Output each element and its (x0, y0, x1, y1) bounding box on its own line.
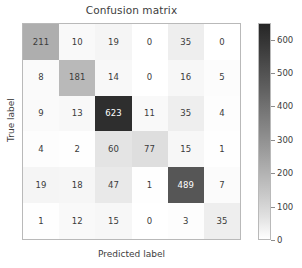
matrix-cell-r4-c5: 7 (204, 167, 240, 203)
matrix-cell-value: 18 (72, 181, 83, 190)
matrix-cell-value: 35 (180, 109, 191, 118)
matrix-cell-value: 77 (144, 145, 155, 154)
colorbar-tick-200 (271, 173, 275, 174)
colorbar-tick-400 (271, 106, 275, 107)
matrix-cell-r0-c4: 35 (168, 24, 204, 60)
matrix-cell-value: 4 (219, 109, 225, 118)
y-axis-label: True label (6, 70, 16, 170)
matrix-cell-value: 5 (219, 73, 225, 82)
matrix-cell-value: 181 (69, 73, 86, 82)
matrix-cell-value: 10 (72, 38, 83, 47)
matrix-cell-r0-c3: 0 (132, 24, 168, 60)
matrix-cell-value: 4 (38, 145, 44, 154)
matrix-cell-r1-c4: 16 (168, 60, 204, 96)
matrix-cell-value: 623 (105, 109, 122, 118)
matrix-cell-r5-c3: 0 (132, 203, 168, 239)
colorbar-tick-label-600: 600 (277, 35, 293, 45)
matrix-cell-r2-c4: 35 (168, 96, 204, 132)
confusion-matrix-figure: Confusion matrix 21110190350818114016591… (0, 0, 302, 268)
matrix-cell-value: 19 (36, 181, 47, 190)
matrix-cell-r3-c0: 4 (23, 131, 59, 167)
colorbar-tick-label-200: 200 (277, 168, 293, 178)
matrix-cell-value: 35 (216, 217, 227, 226)
matrix-cell-r1-c0: 8 (23, 60, 59, 96)
matrix-cell-r3-c5: 1 (204, 131, 240, 167)
colorbar-tick-100 (271, 207, 275, 208)
matrix-cell-r0-c1: 10 (59, 24, 95, 60)
matrix-cell-value: 8 (38, 73, 44, 82)
matrix-cell-value: 9 (38, 109, 44, 118)
matrix-cell-value: 60 (108, 145, 119, 154)
matrix-cell-r1-c2: 14 (95, 60, 131, 96)
matrix-cell-value: 13 (72, 109, 83, 118)
matrix-cell-r4-c2: 47 (95, 167, 131, 203)
matrix-cell-value: 15 (108, 217, 119, 226)
matrix-cell-r0-c5: 0 (204, 24, 240, 60)
colorbar-tick-label-100: 100 (277, 202, 293, 212)
matrix-cell-value: 0 (147, 217, 153, 226)
matrix-cell-value: 489 (177, 181, 194, 190)
matrix-cell-r3-c1: 2 (59, 131, 95, 167)
matrix-cell-grid: 2111019035081811401659136231135442607715… (23, 24, 240, 239)
matrix-cell-value: 2 (74, 145, 80, 154)
matrix-cell-r2-c0: 9 (23, 96, 59, 132)
matrix-cell-r3-c4: 15 (168, 131, 204, 167)
matrix-cell-r4-c0: 19 (23, 167, 59, 203)
matrix-cell-value: 1 (219, 145, 225, 154)
matrix-cell-r2-c3: 11 (132, 96, 168, 132)
matrix-cell-r3-c3: 77 (132, 131, 168, 167)
matrix-cell-r3-c2: 60 (95, 131, 131, 167)
matrix-cell-value: 15 (180, 145, 191, 154)
matrix-cell-r2-c5: 4 (204, 96, 240, 132)
matrix-cell-r5-c5: 35 (204, 203, 240, 239)
matrix-cell-value: 47 (108, 181, 119, 190)
matrix-cell-r4-c3: 1 (132, 167, 168, 203)
colorbar-tick-300 (271, 140, 275, 141)
matrix-cell-r2-c1: 13 (59, 96, 95, 132)
matrix-cell-r1-c3: 0 (132, 60, 168, 96)
matrix-cell-r5-c4: 3 (168, 203, 204, 239)
matrix-cell-r2-c2: 623 (95, 96, 131, 132)
matrix-cell-value: 12 (72, 217, 83, 226)
colorbar-tick-500 (271, 73, 275, 74)
matrix-cell-value: 11 (144, 109, 155, 118)
matrix-cell-value: 0 (219, 38, 225, 47)
matrix-cell-value: 0 (147, 73, 153, 82)
x-axis-label: Predicted label (22, 249, 241, 259)
matrix-cell-value: 1 (147, 181, 153, 190)
colorbar-tick-label-300: 300 (277, 135, 293, 145)
matrix-cell-r5-c1: 12 (59, 203, 95, 239)
chart-title: Confusion matrix (22, 4, 241, 16)
colorbar (258, 23, 271, 240)
colorbar-tick-label-0: 0 (277, 235, 282, 245)
matrix-cell-r1-c1: 181 (59, 60, 95, 96)
matrix-cell-r1-c5: 5 (204, 60, 240, 96)
colorbar-tick-0 (271, 240, 275, 241)
colorbar-gradient (259, 24, 270, 239)
matrix-cell-r5-c0: 1 (23, 203, 59, 239)
matrix-plot-area: 2111019035081811401659136231135442607715… (22, 23, 241, 240)
matrix-cell-value: 14 (108, 73, 119, 82)
matrix-cell-r0-c0: 211 (23, 24, 59, 60)
matrix-cell-value: 211 (33, 38, 50, 47)
matrix-cell-r4-c1: 18 (59, 167, 95, 203)
matrix-cell-value: 19 (108, 38, 119, 47)
matrix-cell-value: 35 (180, 38, 191, 47)
colorbar-tick-label-400: 400 (277, 101, 293, 111)
matrix-cell-r5-c2: 15 (95, 203, 131, 239)
matrix-cell-value: 16 (180, 73, 191, 82)
matrix-cell-r0-c2: 19 (95, 24, 131, 60)
matrix-cell-r4-c4: 489 (168, 167, 204, 203)
matrix-cell-value: 7 (219, 181, 225, 190)
colorbar-tick-label-500: 500 (277, 68, 293, 78)
matrix-cell-value: 0 (147, 38, 153, 47)
matrix-cell-value: 3 (183, 217, 189, 226)
colorbar-tick-600 (271, 40, 275, 41)
matrix-cell-value: 1 (38, 217, 44, 226)
